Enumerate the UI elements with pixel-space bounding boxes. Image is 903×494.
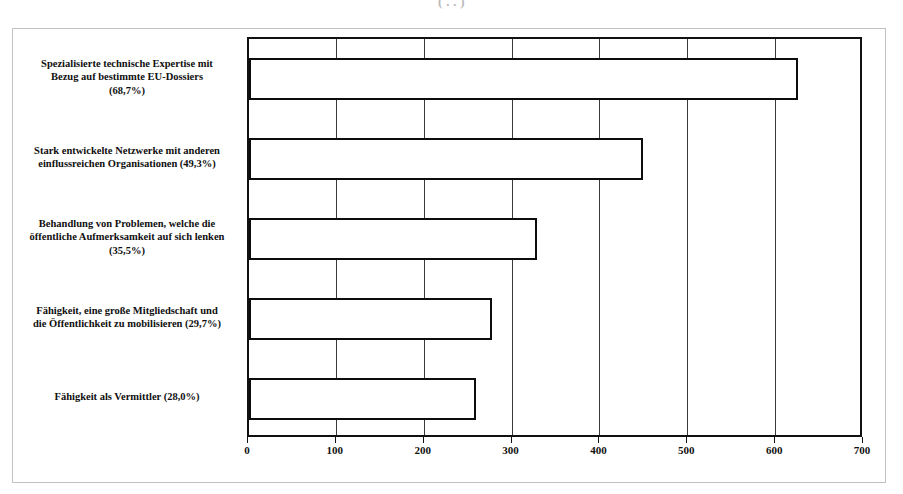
x-tickmark-700 (862, 437, 863, 443)
x-tick-label-300: 300 (481, 444, 541, 456)
x-tickmark-100 (335, 437, 336, 443)
x-tick-label-700: 700 (832, 444, 892, 456)
x-tick-label-100: 100 (305, 444, 365, 456)
x-tick-label-200: 200 (393, 444, 453, 456)
category-label-3: Behandlung von Problemen, welche die öff… (13, 217, 241, 258)
bar-5 (249, 378, 476, 420)
x-tickmark-0 (247, 437, 248, 443)
bar-4 (249, 298, 492, 340)
x-tick-label-400: 400 (568, 444, 628, 456)
category-label-1: Spezialisierte technische Expertise mit … (13, 57, 241, 98)
bar-2 (249, 138, 643, 180)
category-label-4: Fähigkeit, eine große Mitgliedschaft und… (13, 304, 241, 331)
x-tickmark-400 (598, 437, 599, 443)
plot-area (247, 37, 862, 437)
x-tickmark-600 (774, 437, 775, 443)
bar-3 (249, 218, 537, 260)
x-tickmark-300 (511, 437, 512, 443)
x-tickmark-200 (423, 437, 424, 443)
x-tick-label-0: 0 (217, 444, 277, 456)
x-tick-label-600: 600 (744, 444, 804, 456)
x-tick-label-500: 500 (656, 444, 716, 456)
horizontal-bar-chart: 0100200300400500600700Spezialisierte tec… (0, 0, 903, 494)
category-label-2: Stark entwickelte Netzwerke mit anderen … (13, 144, 241, 171)
category-label-5: Fähigkeit als Vermittler (28,0%) (13, 390, 241, 404)
x-tickmark-500 (686, 437, 687, 443)
bar-1 (249, 58, 798, 100)
